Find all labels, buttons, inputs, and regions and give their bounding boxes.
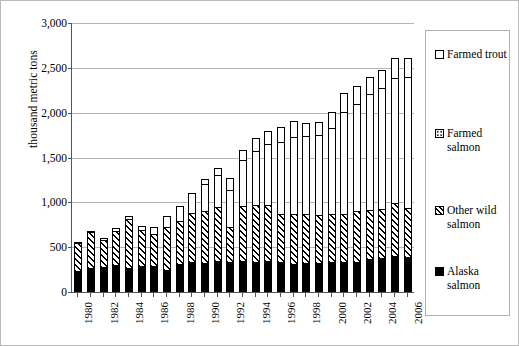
legend-item-other-wild-salmon[interactable]: Other wild salmon <box>435 204 509 231</box>
bar-1989 <box>188 192 196 292</box>
legend-label: Other wild salmon <box>447 204 509 231</box>
bar-segment <box>290 214 298 264</box>
bar-group <box>72 23 414 292</box>
bar-segment <box>378 258 386 292</box>
bar-1987 <box>163 216 171 292</box>
bar-segment <box>340 262 348 292</box>
bar-segment <box>277 142 285 214</box>
chart-legend: Farmed troutFarmed salmonOther wild salm… <box>425 30 510 316</box>
bar-segment <box>112 231 120 265</box>
bar-segment <box>328 128 336 213</box>
bar-segment <box>74 271 82 292</box>
x-tick-mark <box>115 293 116 297</box>
y-tick-label: 1,500 <box>41 152 67 164</box>
bar-1991 <box>214 168 222 292</box>
chart-frame: thousand metric tons 05001,0001,5002,000… <box>0 0 519 346</box>
x-tick-mark <box>191 293 192 297</box>
bar-segment <box>353 262 361 292</box>
x-tick-mark <box>356 293 357 297</box>
bar-segment <box>340 112 348 213</box>
x-tick-mark <box>255 293 256 297</box>
bar-1998 <box>302 123 310 292</box>
x-tick-label: 2006 <box>412 302 424 324</box>
bar-1999 <box>315 122 323 292</box>
bar-segment <box>378 70 386 89</box>
bar-segment <box>201 211 209 263</box>
bar-segment <box>328 214 336 263</box>
bar-segment <box>391 78 399 203</box>
bar-segment <box>87 232 95 267</box>
bar-segment <box>163 216 171 227</box>
bar-segment <box>176 264 184 292</box>
x-tick-mark <box>128 293 129 297</box>
bar-1984 <box>125 216 133 292</box>
bar-segment <box>226 178 234 190</box>
bar-segment <box>290 137 298 214</box>
y-tick-label: 2,500 <box>41 62 67 74</box>
bar-segment <box>302 263 310 292</box>
bar-segment <box>340 214 348 262</box>
bar-segment <box>150 266 158 292</box>
bar-segment <box>353 104 361 212</box>
legend-swatch-icon <box>435 129 444 138</box>
bar-segment <box>404 77 412 208</box>
bar-segment <box>252 138 260 151</box>
bar-segment <box>290 264 298 292</box>
bar-2006 <box>404 58 412 292</box>
bar-segment <box>214 207 222 261</box>
x-tick-mark <box>407 293 408 297</box>
bar-segment <box>239 150 247 160</box>
bar-segment <box>163 270 171 292</box>
bar-segment <box>353 211 361 261</box>
bar-segment <box>404 257 412 292</box>
legend-item-farmed-salmon[interactable]: Farmed salmon <box>435 127 509 154</box>
legend-item-alaska-salmon[interactable]: Alaska salmon <box>435 265 509 292</box>
bar-segment <box>252 151 260 205</box>
x-tick-mark <box>394 293 395 297</box>
bar-segment <box>378 209 386 258</box>
bar-segment <box>378 88 386 208</box>
x-tick-label: 1986 <box>158 302 170 324</box>
x-tick-mark <box>166 293 167 297</box>
bar-segment <box>100 240 108 266</box>
bar-segment <box>277 214 285 263</box>
bar-segment <box>366 94 374 210</box>
bar-segment <box>315 135 323 215</box>
x-tick-mark <box>77 293 78 297</box>
bar-segment <box>391 256 399 292</box>
plot-area: 05001,0001,5002,0002,5003,000 <box>71 23 414 293</box>
x-tick-mark <box>229 293 230 297</box>
x-tick-mark <box>369 293 370 297</box>
x-tick-mark <box>331 293 332 297</box>
legend-label: Alaska salmon <box>447 265 509 292</box>
legend-label: Farmed trout <box>447 48 507 62</box>
x-tick-mark <box>217 293 218 297</box>
y-tick-label: 500 <box>50 241 67 253</box>
bar-segment <box>328 262 336 292</box>
x-tick-mark <box>293 293 294 297</box>
legend-label: Farmed salmon <box>447 127 509 154</box>
x-tick-mark <box>103 293 104 297</box>
bar-segment <box>214 261 222 292</box>
y-tick-label: 3,000 <box>41 17 67 29</box>
bar-segment <box>214 175 222 207</box>
bar-segment <box>264 261 272 292</box>
y-tick-label: 2,000 <box>41 107 67 119</box>
bar-segment <box>188 213 196 262</box>
bar-1993 <box>239 150 247 292</box>
bar-segment <box>353 86 361 104</box>
legend-item-farmed-trout[interactable]: Farmed trout <box>435 48 509 62</box>
x-tick-mark <box>179 293 180 297</box>
x-tick-mark <box>204 293 205 297</box>
bar-1988 <box>176 206 184 292</box>
y-axis-title: thousand metric tons <box>27 4 39 194</box>
x-tick-label: 2004 <box>386 302 398 324</box>
x-tick-mark <box>318 293 319 297</box>
x-tick-mark <box>153 293 154 297</box>
bar-2002 <box>353 86 361 292</box>
x-tick-mark <box>242 293 243 297</box>
bar-1996 <box>277 127 285 292</box>
x-tick-mark <box>141 293 142 297</box>
x-tick-mark <box>280 293 281 297</box>
bar-segment <box>302 123 310 136</box>
